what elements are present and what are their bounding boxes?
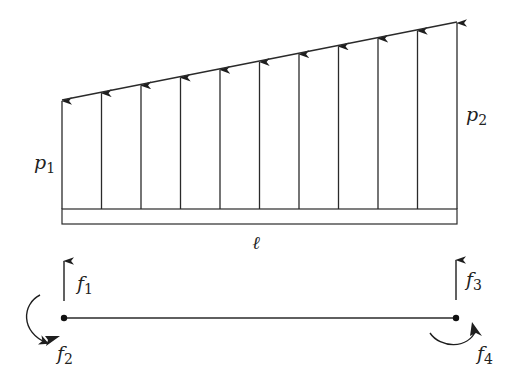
moment-arrow-f2	[27, 295, 47, 343]
force-label-f4: f4	[475, 342, 493, 367]
length-label: ℓ	[252, 232, 260, 253]
moment-arrow-f4	[430, 330, 476, 345]
beam-diagram: p1 p2 ℓ f1 f2 f3 f4	[0, 0, 511, 380]
moment-arrowhead-f4	[470, 322, 482, 336]
right-node	[453, 315, 459, 321]
beam-body	[62, 209, 457, 224]
load-label-p1: p1	[34, 151, 55, 176]
distributed-load	[62, 23, 457, 209]
force-label-f3: f3	[464, 268, 482, 293]
load-label-p2: p2	[466, 103, 487, 128]
force-label-f1: f1	[75, 272, 93, 297]
force-label-f2: f2	[55, 342, 73, 367]
left-node	[61, 315, 67, 321]
